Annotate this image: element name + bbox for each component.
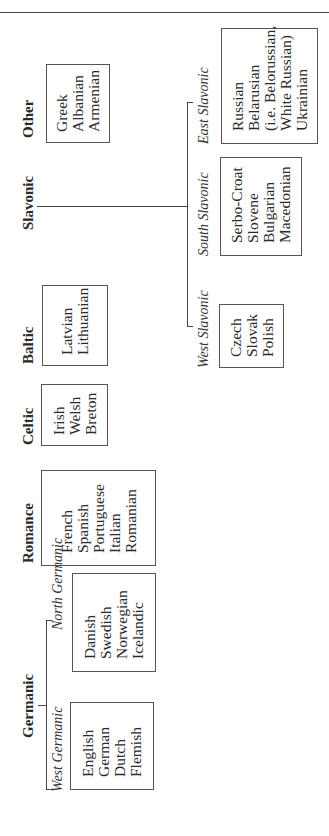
south-slavonic-box: Serbo-Croat Slovene Bulgarian Macedonian [220,157,302,256]
language-item: White Russian) [278,35,294,131]
language-item: Danish [82,615,98,659]
baltic-box: Latvian Lithuanian [42,285,108,366]
subgroup-label-east-slavonic: East Slavonic [196,67,212,144]
slavonic-stem-line [37,206,188,207]
north-germanic-box: Danish Swedish Norwegian Icelandic [72,573,156,672]
subgroup-label-west-slavonic: West Slavonic [196,290,212,368]
east-slavonic-box: Russian Belarusian (i.e. Belorussian, Wh… [221,28,318,144]
page-rule [0,12,329,13]
language-item: Russian [230,82,246,131]
language-item: Latvian [59,308,75,355]
language-item: Swedish [98,606,114,659]
slavonic-bracket [187,103,188,327]
language-item: Ukrainian [294,69,310,131]
language-item: Lithuanian [75,288,91,355]
language-item: Greek [54,94,70,132]
language-item: Icelandic [130,602,146,659]
group-label-germanic: Germanic [20,674,37,738]
slavonic-west-tick [187,326,193,327]
language-item: Romanian [123,489,139,553]
west-slavonic-box: Czech Slovak Polish [219,304,284,368]
language-item: Slovene [245,193,261,243]
celtic-box: Irish Welsh Breton [41,384,108,446]
language-item: Bulgarian [261,182,277,243]
slavonic-east-tick [187,102,193,103]
other-box: Greek Albanian Armenian [46,64,110,143]
language-item: Slovak [244,314,260,357]
language-item: Polish [260,318,276,357]
language-item: Welsh [67,397,83,435]
language-item: Serbo-Croat [229,167,245,243]
language-item: Italian [107,513,123,553]
group-label-other: Other [20,100,37,138]
language-item: Flemish [128,727,144,777]
language-item: German [96,727,112,777]
group-label-baltic: Baltic [20,327,37,365]
subgroup-label-south-slavonic: South Slavonic [196,172,212,256]
west-germanic-box: English German Dutch Flemish [70,702,154,790]
germanic-bracket [46,621,47,790]
group-label-slavonic: Slavonic [20,176,37,230]
language-item: Dutch [112,739,128,777]
germanic-stem [38,705,46,706]
group-label-romance: Romance [20,503,37,563]
language-item: Portuguese [91,484,107,553]
language-item: (i.e. Belorussian, [262,26,278,131]
language-item: Irish [51,407,67,435]
language-item: Albanian [70,75,86,132]
romance-box: French Spanish Portuguese Italian Romani… [41,470,156,566]
language-item: Armenian [86,70,102,132]
subgroup-label-west-germanic: West Germanic [50,707,66,792]
group-label-celtic: Celtic [20,408,37,445]
language-family-diagram: Germanic West Germanic North Germanic En… [0,0,329,836]
language-item: Spanish [75,504,91,553]
language-item: Belarusian [246,65,262,131]
language-item: English [80,730,96,777]
language-item: Breton [83,393,99,435]
language-item: Macedonian [277,166,293,243]
language-item: Czech [228,318,244,357]
language-item: Norwegian [114,590,130,659]
language-item: French [59,510,75,553]
